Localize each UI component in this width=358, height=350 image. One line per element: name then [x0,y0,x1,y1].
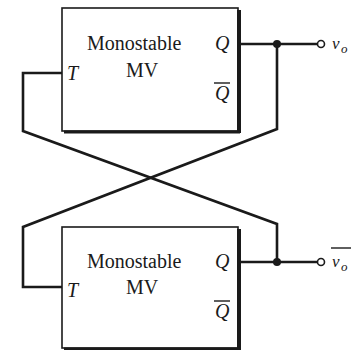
label-vo-bar: v o [331,248,351,274]
bottom-monostable-block: Monostable MV T Q Q [62,227,240,350]
svg-text:o: o [341,41,348,56]
circuit-diagram: Monostable MV T Q Q Monostable MV T Q Q … [0,0,358,350]
bottom-block-label: Monostable [87,250,182,272]
top-input-t: T [67,62,80,84]
top-block-label: Monostable [87,32,182,54]
svg-text:o: o [341,259,348,274]
bottom-output-qbar: Q [215,300,230,322]
top-block-sublabel: MV [126,59,159,81]
bottom-block-sublabel: MV [126,276,159,298]
terminal-vo-bar [318,259,325,266]
label-vo: v o [332,34,348,56]
junction-dot-bottom [273,258,281,266]
bottom-input-t: T [67,279,80,301]
svg-text:v: v [332,34,340,53]
junction-dot-top [273,40,281,48]
svg-text:v: v [332,252,340,271]
terminal-vo [318,41,325,48]
bottom-output-q: Q [215,250,230,272]
top-output-qbar: Q [215,82,230,104]
top-monostable-block: Monostable MV T Q Q [62,8,240,133]
top-output-q: Q [215,32,230,54]
